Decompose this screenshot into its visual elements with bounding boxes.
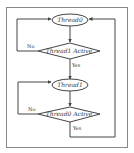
no-label-1: No <box>27 43 34 49</box>
flowchart: Thread0 Thread1 Active No Yes Thread1 Th… <box>0 0 134 153</box>
thread0-active-decision: Thread0 Active <box>38 107 100 122</box>
thread0-node: Thread0 <box>52 14 88 26</box>
decision2-label: Thread0 Active <box>46 110 93 117</box>
decision1-label: Thread1 Active <box>46 47 93 54</box>
thread1-label: Thread1 <box>57 81 83 88</box>
no-label-2: No <box>28 106 35 112</box>
yes-label-2: Yes <box>72 125 82 131</box>
thread0-label: Thread0 <box>57 16 83 23</box>
outer-frame <box>7 8 128 148</box>
thread1-node: Thread1 <box>52 79 88 91</box>
yes-label-1: Yes <box>71 62 81 68</box>
thread1-active-decision: Thread1 Active <box>38 43 100 59</box>
